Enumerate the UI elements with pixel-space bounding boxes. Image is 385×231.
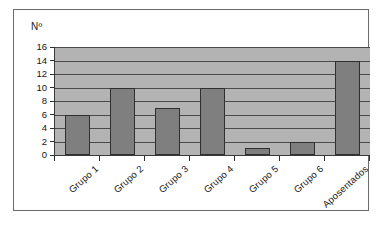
x-tick-label: Grupo 3	[156, 163, 190, 195]
x-axis-labels: Grupo 1Grupo 2Grupo 3Grupo 4Grupo 5Grupo…	[14, 10, 385, 231]
x-tick-label: Grupo 4	[201, 163, 235, 195]
x-tick-label: Aposentados	[320, 163, 370, 210]
chart-frame: Nº 0246810121416 Grupo 1Grupo 2Grupo 3Gr…	[13, 9, 369, 211]
x-tick-label: Grupo 1	[66, 163, 100, 195]
x-tick-label: Grupo 5	[246, 163, 280, 195]
x-tick-label: Grupo 6	[291, 163, 325, 195]
x-tick-label: Grupo 2	[111, 163, 145, 195]
